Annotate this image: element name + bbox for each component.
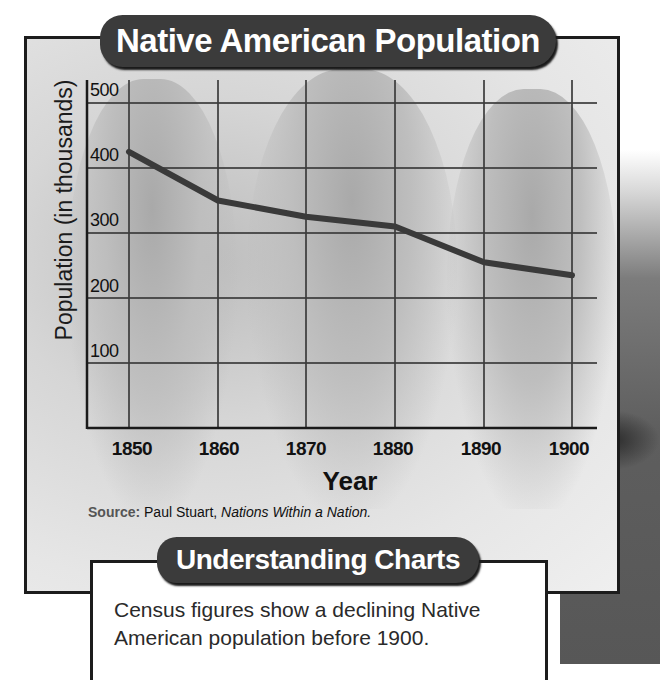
x-tick-1890: 1890: [461, 438, 501, 460]
y-tick-500: 500: [90, 80, 119, 101]
grid-lines: [87, 80, 597, 428]
source-label: Source:: [88, 504, 140, 520]
source-author: Paul Stuart,: [140, 504, 221, 520]
x-tick-1860: 1860: [199, 438, 239, 460]
y-tick-100: 100: [90, 341, 119, 362]
chart-axes: [87, 80, 597, 429]
understanding-charts-banner: Understanding Charts: [157, 537, 479, 583]
x-tick-1870: 1870: [286, 438, 326, 460]
y-tick-400: 400: [90, 145, 119, 166]
understanding-charts-title: Understanding Charts: [176, 544, 460, 576]
chart-title-banner: Native American Population: [100, 15, 556, 67]
x-axis-label: Year: [323, 466, 378, 497]
source-citation: Source: Paul Stuart, Nations Within a Na…: [88, 504, 371, 520]
y-axis-label: Population (in thousands): [51, 80, 78, 341]
x-tick-1850: 1850: [112, 438, 152, 460]
chart-title: Native American Population: [116, 22, 540, 60]
understanding-charts-text: Census figures show a declining Native A…: [114, 596, 534, 652]
x-tick-1900: 1900: [549, 438, 589, 460]
source-book-title: Nations Within a Nation.: [221, 504, 371, 520]
x-tick-1880: 1880: [373, 438, 413, 460]
y-tick-300: 300: [90, 210, 119, 231]
y-tick-200: 200: [90, 276, 119, 297]
population-line: [129, 152, 572, 275]
